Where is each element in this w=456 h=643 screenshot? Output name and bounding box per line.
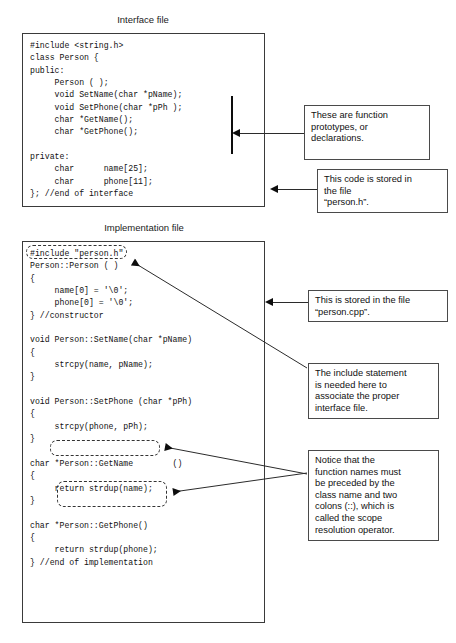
highlight-setphone-name (50, 440, 160, 456)
callout-line: “person.cpp”. (315, 307, 442, 319)
callout-line: This code is stored in (324, 174, 442, 186)
callout-stored-in-person-cpp: This is stored in the file “person.cpp”. (308, 290, 448, 322)
callout-scope-resolution: Notice that the function names must be p… (308, 450, 439, 541)
interface-file-code: #include <string.h> class Person { publi… (30, 40, 182, 200)
callout-line: class name and two (315, 490, 433, 502)
prototype-connector-line (240, 133, 304, 134)
prototype-arrow-icon (232, 129, 240, 137)
person-h-connector-line (278, 189, 317, 190)
callout-line: declarations. (311, 133, 424, 145)
interface-file-code-frame: #include <string.h> class Person { publi… (22, 33, 265, 207)
highlight-getname-name (57, 481, 167, 507)
callout-line: Notice that the (315, 455, 433, 467)
callout-line: colons (::), which is (315, 501, 433, 513)
highlight-include-person-h (26, 245, 127, 259)
callout-line: resolution operator. (315, 525, 433, 537)
callout-line: called the scope (315, 513, 433, 525)
callout-line: This is stored in the file (315, 295, 442, 307)
callout-stored-in-person-h: This code is stored in the file “person.… (317, 169, 448, 213)
person-h-arrow-icon (270, 185, 278, 193)
callout-line: is needed here to (315, 380, 433, 392)
person-cpp-arrow-icon (265, 298, 273, 306)
callout-line: The include statement (315, 368, 433, 380)
prototype-bracket (231, 96, 233, 154)
callout-line: “person.h”. (324, 197, 442, 209)
interface-file-caption: Interface file (93, 14, 193, 26)
callout-line: be preceded by the (315, 478, 433, 490)
diagram-canvas: Interface file #include <string.h> class… (0, 0, 456, 643)
callout-line: associate the proper (315, 391, 433, 403)
callout-include-statement: The include statement is needed here to … (308, 363, 439, 419)
callout-line: These are function (311, 110, 424, 122)
callout-line: interface file. (315, 403, 433, 415)
callout-line: the file (324, 186, 442, 198)
implementation-file-code-frame: #include "person.h" Person::Person ( ) {… (22, 241, 265, 623)
implementation-file-caption: Implementation file (85, 222, 203, 234)
person-cpp-connector-line (273, 302, 308, 303)
callout-line: function names must (315, 467, 433, 479)
implementation-file-code: #include "person.h" Person::Person ( ) {… (30, 248, 192, 569)
callout-line: prototypes, or (311, 122, 424, 134)
callout-function-prototypes: These are function prototypes, or declar… (304, 105, 430, 160)
